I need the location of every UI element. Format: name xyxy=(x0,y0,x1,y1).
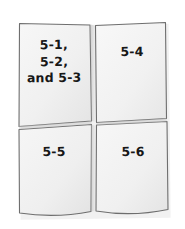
panel-shape-bottom-right xyxy=(96,122,168,214)
panel-layout-figure: 5-1, 5-2, and 5-3 5-4 5-5 5-6 xyxy=(0,0,185,229)
panel-shape-top-right xyxy=(96,23,167,123)
panel-outlines xyxy=(0,0,185,229)
panel-shape-top-left xyxy=(19,24,92,127)
panel-shape-bottom-left xyxy=(19,125,92,216)
vertical-seam-shadow-lower xyxy=(91,125,96,212)
